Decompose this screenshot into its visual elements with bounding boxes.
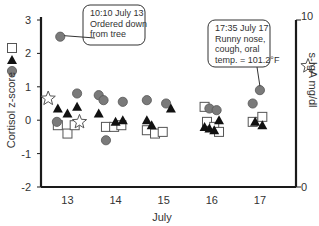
circle-marker <box>101 136 110 145</box>
y-tick-label: -2 <box>21 181 31 193</box>
y-tick-label: 3 <box>25 14 31 26</box>
circle-marker <box>72 89 81 98</box>
square-marker <box>258 112 267 121</box>
triangle-marker <box>72 102 82 111</box>
square-marker <box>101 122 110 131</box>
y-tick-label: 1 <box>25 81 31 93</box>
square-marker <box>158 127 167 136</box>
x-axis-label: July <box>152 211 172 223</box>
triangle-marker <box>118 115 128 124</box>
annotations: 10:10 July 13Ordered downfrom tree17:35 … <box>64 5 280 86</box>
y2-tick-label: 10 <box>301 10 313 22</box>
circle-marker <box>142 96 151 105</box>
callout-pointer <box>257 67 260 86</box>
callout-text: Runny nose, <box>215 34 266 44</box>
triangle-marker <box>62 109 72 118</box>
circle-marker <box>56 32 65 41</box>
callout-text: 17:35 July 17 <box>215 23 269 33</box>
callout-box: 17:35 July 17Runny nose,cough, oraltemp.… <box>208 20 280 86</box>
y-axis-label: Cortisol z-score <box>5 72 17 148</box>
callout-text: Ordered down <box>90 19 147 29</box>
x-tick-label: 13 <box>61 194 73 206</box>
circle-marker <box>255 86 264 95</box>
callout-box: 10:10 July 13Ordered downfrom tree <box>64 5 147 45</box>
circle-marker <box>212 106 221 115</box>
chart-canvas: 3210-1-21001314151617 10:10 July 13Order… <box>0 0 319 226</box>
square-marker <box>63 129 72 138</box>
x-tick-label: 16 <box>206 194 218 206</box>
legend-triangle-icon <box>7 55 17 64</box>
triangle-marker <box>94 109 104 118</box>
x-tick-label: 17 <box>254 194 266 206</box>
triangle-marker <box>53 104 63 113</box>
y2-tick-label: 0 <box>301 181 307 193</box>
circle-marker <box>248 99 257 108</box>
y-tick-label: -1 <box>21 148 31 160</box>
x-tick-label: 14 <box>109 194 121 206</box>
callout-text: 10:10 July 13 <box>90 8 144 18</box>
cortisol-siga-chart: 3210-1-21001314151617 10:10 July 13Order… <box>0 0 319 226</box>
star-marker <box>41 91 55 105</box>
callout-text: from tree <box>90 29 126 39</box>
circle-marker <box>52 117 61 126</box>
callout-text: temp. = 101.2°F <box>215 55 280 65</box>
circle-marker <box>118 97 127 106</box>
x-tick-label: 15 <box>158 194 170 206</box>
circle-marker <box>99 96 108 105</box>
y-tick-label: 0 <box>25 114 31 126</box>
y-tick-label: 2 <box>25 47 31 59</box>
triangle-marker <box>214 115 224 124</box>
callout-text: cough, oral <box>215 44 260 54</box>
y2-axis-label: s-IgA mg/dl <box>307 52 319 107</box>
legend-square-icon <box>8 44 17 53</box>
